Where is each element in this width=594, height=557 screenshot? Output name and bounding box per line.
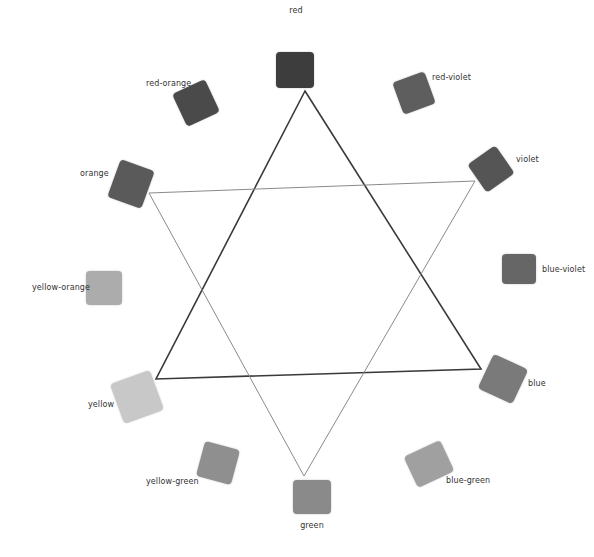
label-blue-violet: blue-violet [542,265,585,275]
swatch-yellow-orange [86,271,122,305]
label-red-orange: red-orange [146,79,191,89]
label-yellow-orange: yellow-orange [32,283,90,293]
swatch-green [293,480,331,514]
secondary-triad-triangle [149,181,475,476]
swatch-red [276,52,314,88]
color-wheel-diagram: redred-violetvioletblue-violetblueblue-g… [0,0,594,557]
label-yellow-green: yellow-green [146,477,199,487]
label-blue-green: blue-green [446,476,490,486]
label-red: red [289,6,302,16]
label-green: green [300,521,324,531]
label-yellow: yellow [88,400,114,410]
label-orange: orange [80,169,109,179]
primary-triad-triangle [156,91,481,379]
label-violet: violet [516,155,539,165]
swatch-blue-violet [502,254,536,284]
label-blue: blue [528,379,546,389]
label-red-violet: red-violet [432,73,471,83]
